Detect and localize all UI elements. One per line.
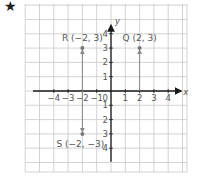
- svg-text:3: 3: [151, 93, 156, 103]
- point-q: [138, 46, 142, 50]
- svg-text:y: y: [114, 16, 121, 26]
- point-r: [80, 46, 84, 50]
- coordinate-plane: xy −4−3−2−11234432112340 R (−2, 3)Q (2, …: [0, 0, 202, 182]
- svg-text:2: 2: [103, 115, 108, 125]
- svg-text:2: 2: [103, 57, 108, 67]
- svg-text:3: 3: [103, 43, 108, 53]
- svg-text:−4: −4: [48, 93, 61, 103]
- point-label-r: R (−2, 3): [62, 33, 103, 43]
- svg-text:4: 4: [165, 93, 170, 103]
- svg-text:−1: −1: [90, 93, 103, 103]
- point-label-s: S (−2, −3): [56, 139, 104, 149]
- svg-text:2: 2: [137, 93, 142, 103]
- svg-text:1: 1: [103, 72, 108, 82]
- svg-text:0: 0: [103, 93, 108, 103]
- svg-text:4: 4: [103, 29, 108, 39]
- point-s: [80, 132, 84, 136]
- svg-text:1: 1: [123, 93, 128, 103]
- svg-text:x: x: [182, 87, 189, 97]
- point-label-q: Q (2, 3): [123, 33, 157, 43]
- svg-text:−3: −3: [62, 93, 75, 103]
- svg-text:3: 3: [103, 129, 108, 139]
